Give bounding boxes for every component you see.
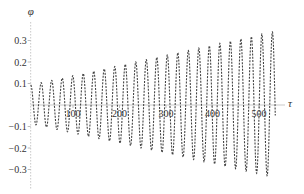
y-tick-label: −0.2 [9,143,27,154]
y-tick-label: 0.3 [14,35,27,46]
y-axis-label: φ [28,5,34,17]
y-tick-label: 0.1 [14,78,27,89]
y-tick-label: 0.2 [14,57,27,68]
y-axis: 0.30.20.1−0.1−0.2−0.3 φ [9,5,34,190]
x-tick-label: 200 [112,108,127,119]
line-chart: 100200300400500 τ 0.30.20.1−0.1−0.2−0.3 … [0,0,304,194]
x-tick-label: 300 [159,108,174,119]
data-series-line [31,32,276,176]
x-axis-label: τ [288,97,293,109]
y-tick-label: −0.1 [9,121,27,132]
x-tick-label: 100 [66,108,81,119]
y-tick-label: −0.3 [9,164,27,175]
